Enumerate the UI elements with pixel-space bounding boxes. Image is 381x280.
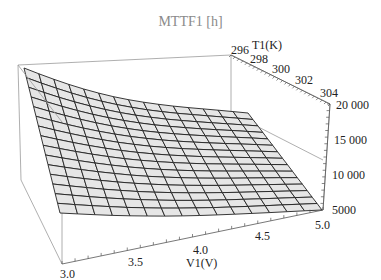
v1-tick-label: 4.5 bbox=[255, 229, 270, 244]
surface-mesh bbox=[24, 68, 322, 216]
t1-tick-label: 300 bbox=[272, 62, 290, 77]
chart-title: MTTF1 [h] bbox=[0, 14, 381, 30]
z-tick-label: 15 000 bbox=[334, 133, 367, 148]
v1-tick-label: 3.5 bbox=[128, 255, 143, 270]
surface-plot bbox=[0, 0, 381, 280]
z-tick-label: 20 000 bbox=[336, 98, 369, 113]
t1-tick-label: 298 bbox=[250, 52, 268, 67]
v1-tick-label: 5.0 bbox=[315, 218, 330, 233]
t1-tick-label: 302 bbox=[295, 73, 313, 88]
z-tick-label: 10 000 bbox=[332, 168, 365, 183]
v1-tick-label: 3.0 bbox=[60, 267, 75, 280]
t1-axis-title: T1(K) bbox=[252, 38, 282, 53]
z-tick-label: 5000 bbox=[332, 203, 356, 218]
t1-tick-label: 296 bbox=[231, 43, 249, 58]
v1-axis-title: V1(V) bbox=[186, 256, 217, 271]
